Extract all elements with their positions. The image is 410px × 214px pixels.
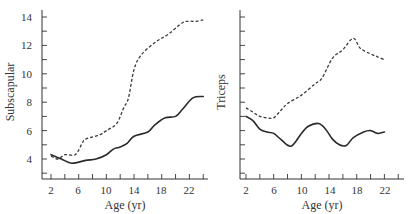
subscapular-panel: 14 12 10 8 6 4 2 6 10 14 18 22 Age (yr) …: [3, 10, 208, 212]
x-tick-label: 6: [75, 184, 81, 196]
subscapular-dashed-line: [51, 20, 203, 159]
right-y-ticks: [240, 17, 245, 173]
x-tick-label: 18: [156, 184, 168, 196]
y-tick-label: 12: [21, 39, 32, 51]
left-y-axis-label: Subscapular: [3, 63, 17, 122]
y-tick-label: 10: [21, 68, 33, 80]
x-tick-label: 6: [271, 184, 277, 196]
right-x-axis-label: Age (yr): [302, 198, 343, 212]
figure: 14 12 10 8 6 4 2 6 10 14 18 22 Age (yr) …: [0, 0, 410, 214]
y-tick-label: 8: [27, 96, 33, 108]
right-x-ticks: [246, 174, 398, 179]
subscapular-solid-line: [51, 97, 203, 164]
triceps-panel: 2 6 10 14 18 22 Age (yr) Triceps: [214, 10, 404, 212]
x-tick-label: 10: [297, 184, 309, 196]
triceps-solid-line: [246, 116, 384, 146]
x-tick-label: 14: [325, 184, 337, 196]
x-tick-label: 22: [184, 184, 195, 196]
x-tick-label: 2: [243, 184, 249, 196]
y-tick-label: 4: [27, 153, 33, 165]
x-tick-label: 14: [129, 184, 141, 196]
left-x-ticks: [51, 174, 203, 179]
right-y-axis-label: Triceps: [214, 74, 228, 110]
x-tick-label: 22: [380, 184, 391, 196]
left-y-ticks: [42, 17, 47, 173]
left-x-axis-label: Age (yr): [105, 198, 146, 212]
triceps-dashed-line: [246, 38, 384, 118]
y-tick-label: 14: [21, 11, 33, 23]
x-tick-label: 2: [48, 184, 54, 196]
x-tick-label: 18: [352, 184, 364, 196]
y-tick-label: 6: [27, 125, 33, 137]
x-tick-label: 10: [101, 184, 113, 196]
